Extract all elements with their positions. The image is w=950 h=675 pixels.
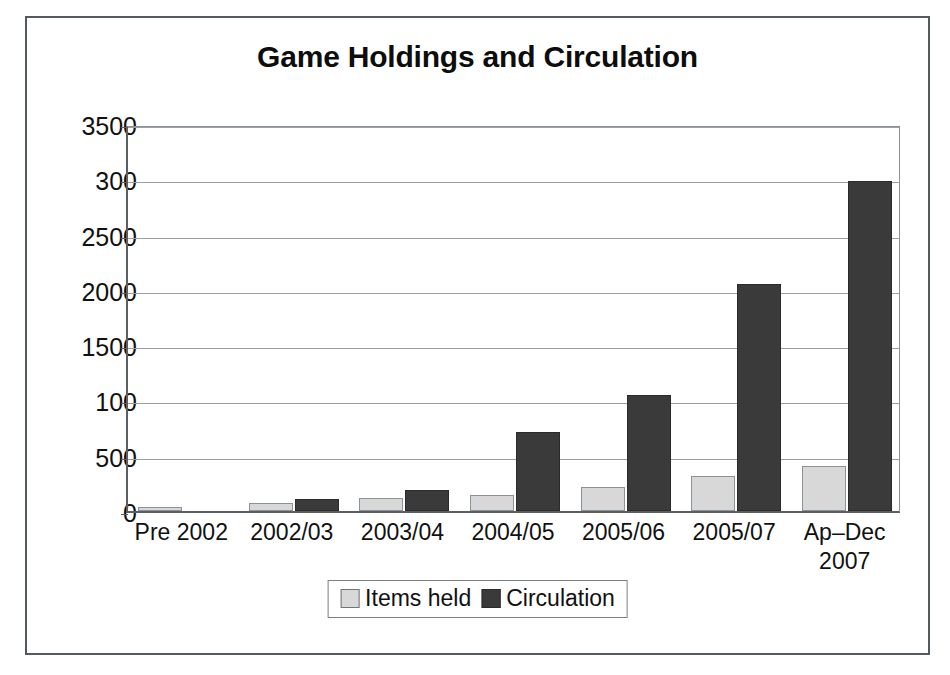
- bar-items-held: [359, 498, 403, 511]
- bar-items-held: [249, 503, 293, 511]
- bar-group: [570, 127, 681, 511]
- bar-circulation: [627, 395, 671, 511]
- x-axis-tick-label: 2002/03: [231, 518, 354, 547]
- bar-group: [128, 127, 239, 511]
- chart-title: Game Holdings and Circulation: [27, 40, 928, 74]
- legend-swatch-items-held: [340, 589, 359, 608]
- legend-label: Items held: [365, 585, 471, 612]
- x-axis-tick-labels: Pre 20022002/032003/042004/052005/062005…: [126, 518, 900, 588]
- bar-group: [460, 127, 571, 511]
- x-axis-tick-label: 2004/05: [452, 518, 575, 547]
- plot-area: [126, 126, 900, 513]
- bar-items-held: [691, 476, 735, 511]
- y-axis-tick: [121, 514, 128, 515]
- bar-items-held: [138, 507, 182, 511]
- y-axis-tick: [121, 348, 128, 349]
- y-axis-tick: [121, 238, 128, 239]
- bar-group: [349, 127, 460, 511]
- x-axis-tick-label: 2005/07: [673, 518, 796, 547]
- y-axis-tick: [121, 127, 128, 128]
- y-axis-tick: [121, 293, 128, 294]
- chart-frame: Game Holdings and Circulation 0500100150…: [25, 16, 930, 655]
- y-axis-tick: [121, 459, 128, 460]
- bar-items-held: [802, 466, 846, 511]
- bar-circulation: [516, 432, 560, 511]
- bar-circulation: [848, 181, 892, 511]
- bar-items-held: [581, 487, 625, 511]
- bar-circulation: [295, 499, 339, 511]
- x-axis-tick-label: Ap–Dec 2007: [783, 518, 906, 576]
- y-axis-tick-labels: 05001001500200025003003500: [52, 126, 137, 513]
- chart-page: { "chart_data": { "type": "bar", "title"…: [0, 0, 950, 675]
- y-axis-tick: [121, 182, 128, 183]
- x-axis-tick-label: Pre 2002: [120, 518, 243, 547]
- bar-group: [239, 127, 350, 511]
- bar-group: [791, 127, 902, 511]
- chart-legend: Items heldCirculation: [327, 580, 628, 618]
- legend-item: Items held: [340, 585, 471, 612]
- legend-item: Circulation: [481, 585, 615, 612]
- bar-group: [681, 127, 792, 511]
- legend-swatch-circulation: [481, 589, 500, 608]
- y-axis-tick: [121, 403, 128, 404]
- bar-items-held: [470, 495, 514, 511]
- bar-circulation: [737, 284, 781, 511]
- x-axis-tick-label: 2005/06: [562, 518, 685, 547]
- legend-label: Circulation: [506, 585, 615, 612]
- x-axis-tick-label: 2003/04: [341, 518, 464, 547]
- bar-circulation: [405, 490, 449, 511]
